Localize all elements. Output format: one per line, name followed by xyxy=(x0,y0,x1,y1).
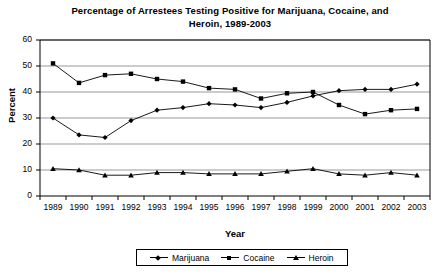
plot-area xyxy=(0,0,445,274)
x-tick-label: 2003 xyxy=(400,202,434,212)
chart-figure: Percentage of Arrestees Testing Positive… xyxy=(0,0,445,274)
data-point xyxy=(103,73,107,77)
legend-label: Marijuana xyxy=(172,253,209,263)
y-tick-label: 60 xyxy=(6,34,32,44)
y-tick-label: 40 xyxy=(6,86,32,96)
data-point xyxy=(388,87,393,92)
data-series-layer xyxy=(50,61,420,177)
data-point xyxy=(258,105,263,110)
data-point xyxy=(259,96,263,100)
y-tick-label: 20 xyxy=(6,138,32,148)
legend-line-sample xyxy=(150,257,168,258)
data-point xyxy=(76,132,81,137)
data-point xyxy=(284,100,289,105)
legend-label: Cocaine xyxy=(243,253,274,263)
data-point xyxy=(414,82,419,87)
data-point xyxy=(388,170,394,175)
data-point xyxy=(311,90,315,94)
y-tick-label: 30 xyxy=(6,112,32,122)
data-point xyxy=(77,81,81,85)
data-point xyxy=(206,101,211,106)
legend-marker-triangle-icon xyxy=(293,255,299,260)
chart-legend: MarijuanaCocaineHeroin xyxy=(136,249,348,266)
data-point xyxy=(389,108,393,112)
data-point xyxy=(180,105,185,110)
data-point xyxy=(128,118,133,123)
data-point xyxy=(337,103,341,107)
data-point xyxy=(154,108,159,113)
data-point xyxy=(129,72,133,76)
legend-item-cocaine[interactable]: Cocaine xyxy=(221,253,274,263)
legend-label: Heroin xyxy=(309,253,334,263)
series-heroin xyxy=(50,166,420,178)
data-point xyxy=(207,86,211,90)
data-point xyxy=(232,102,237,107)
data-point xyxy=(50,115,55,120)
legend-line-sample xyxy=(221,257,239,258)
data-point xyxy=(336,88,341,93)
legend-item-heroin[interactable]: Heroin xyxy=(287,253,334,263)
data-point xyxy=(310,166,316,171)
data-point xyxy=(415,107,419,111)
data-point xyxy=(155,77,159,81)
data-point xyxy=(102,135,107,140)
data-point xyxy=(51,61,55,65)
legend-line-sample xyxy=(287,257,305,258)
data-point xyxy=(181,79,185,83)
data-point xyxy=(363,112,367,116)
y-tick-label: 0 xyxy=(6,190,32,200)
legend-marker-square-icon xyxy=(227,256,231,260)
legend-item-marijuana[interactable]: Marijuana xyxy=(150,253,209,263)
data-point xyxy=(362,87,367,92)
y-tick-label: 10 xyxy=(6,164,32,174)
y-tick-label: 50 xyxy=(6,60,32,70)
data-point xyxy=(233,87,237,91)
legend-marker-diamond-icon xyxy=(155,255,161,261)
data-point xyxy=(285,91,289,95)
